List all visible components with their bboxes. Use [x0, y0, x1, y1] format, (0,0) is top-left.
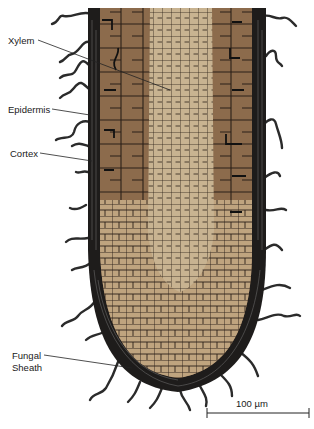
label-sheath: Sheath: [12, 362, 42, 373]
label-cortex: Cortex: [10, 148, 38, 159]
label-epidermis: Epidermis: [8, 104, 50, 115]
label-fungal: Fungal: [12, 350, 41, 361]
root-diagram: [0, 0, 314, 429]
label-xylem: Xylem: [8, 35, 34, 46]
epidermis-leader: [52, 109, 90, 115]
scale-bar-label: 100 µm: [236, 398, 268, 409]
scale-bar: [207, 408, 309, 418]
cortex-leader: [40, 153, 92, 161]
